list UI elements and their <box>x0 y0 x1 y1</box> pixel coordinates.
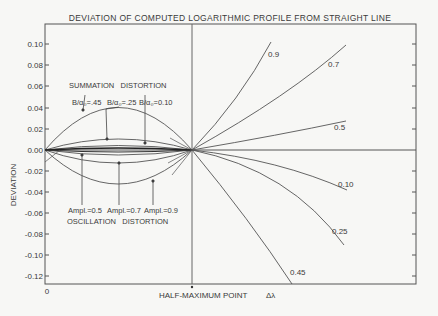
oscillation-label-05: Ampl.=0.5 <box>68 206 102 215</box>
right-curve-labels: 0.9 0.7 0.5 0.10 0.25 0.45 <box>268 50 354 277</box>
y-tick-labels: 0.10 0.08 0.06 0.04 0.02 0.00 -0.02 -0.0… <box>25 40 44 281</box>
svg-text:0.06: 0.06 <box>27 82 43 91</box>
svg-text:-0.10: -0.10 <box>25 251 44 260</box>
svg-text:-0.04: -0.04 <box>25 188 44 197</box>
chart: 0.10 0.08 0.06 0.04 0.02 0.00 -0.02 -0.0… <box>0 0 438 316</box>
curve-right-045 <box>192 150 292 284</box>
x-axis-symbol: Δλ <box>266 291 275 300</box>
svg-text:0.9: 0.9 <box>268 50 280 59</box>
y-ticks-right <box>412 44 416 276</box>
svg-text:0.45: 0.45 <box>290 268 306 277</box>
right-curves <box>168 42 347 284</box>
curve-right-05 <box>192 121 346 150</box>
svg-text:0.10: 0.10 <box>338 180 354 189</box>
curve-right-09 <box>192 42 271 150</box>
left-curves <box>45 108 192 185</box>
summation-label-045: B/α₀=.45 <box>72 98 101 107</box>
summation-label-025: B/α₀=.25 <box>107 98 136 107</box>
plot-frame <box>45 24 416 284</box>
curve-summation-045 <box>45 108 192 151</box>
oscillation-heading: OSCILLATION DISTORTION <box>67 217 168 226</box>
svg-text:0.5: 0.5 <box>334 123 346 132</box>
summation-label-010: B/α₀=0.10 <box>139 98 173 107</box>
x-axis-label: HALF-MAXIMUM POINT <box>159 291 248 300</box>
svg-text:0.00: 0.00 <box>27 146 43 155</box>
svg-text:-0.08: -0.08 <box>25 230 44 239</box>
svg-text:0.25: 0.25 <box>332 227 348 236</box>
svg-text:-0.06: -0.06 <box>25 209 44 218</box>
svg-text:0.7: 0.7 <box>328 60 340 69</box>
x-origin-label: 0 <box>45 287 50 296</box>
oscillation-label-09: Ampl.=0.9 <box>144 206 178 215</box>
svg-text:-0.02: -0.02 <box>25 167 44 176</box>
oscillation-label-07: Ampl.=0.7 <box>107 206 141 215</box>
y-axis-label: DEVIATION <box>9 164 18 207</box>
svg-text:0.04: 0.04 <box>27 104 43 113</box>
chart-title: DEVIATION OF COMPUTED LOGARITHMIC PROFIL… <box>69 13 391 23</box>
svg-text:-0.12: -0.12 <box>25 272 44 281</box>
curve-right-025 <box>192 150 344 245</box>
half-maximum-marker <box>191 286 193 288</box>
svg-text:0.02: 0.02 <box>27 125 43 134</box>
svg-text:0.08: 0.08 <box>27 61 43 70</box>
summation-heading: SUMMATION DISTORTION <box>69 81 167 90</box>
curve-right-07 <box>192 45 346 150</box>
svg-text:0.10: 0.10 <box>27 40 43 49</box>
